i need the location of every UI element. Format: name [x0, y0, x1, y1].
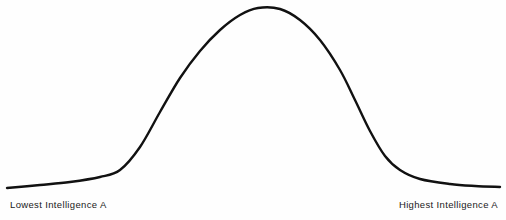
bell-curve-chart — [0, 0, 506, 220]
axis-label-lowest-intelligence: Lowest Intelligence A — [10, 199, 107, 210]
bell-curve-figure: Lowest Intelligence A Highest Intelligen… — [0, 0, 506, 220]
bell-curve-path — [7, 7, 500, 188]
axis-label-highest-intelligence: Highest Intelligence A — [399, 199, 498, 210]
